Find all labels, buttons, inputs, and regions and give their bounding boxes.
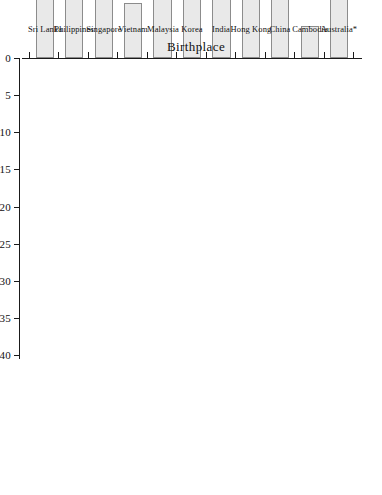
category-tick-label: Sri Lanka	[28, 24, 62, 34]
value-tick-label: 15	[0, 163, 11, 175]
category-tick-label: Korea	[181, 24, 202, 34]
value-tick	[14, 95, 20, 96]
value-tick-label: 5	[5, 89, 11, 101]
value-tick-label: 25	[0, 238, 11, 250]
category-tick	[324, 52, 325, 58]
chart-figure: Australia*CambodiaChinaHong KongIndiaKor…	[0, 0, 382, 495]
value-tick	[14, 355, 20, 356]
category-tick	[147, 52, 148, 58]
category-axis-line	[22, 58, 362, 59]
category-tick-label: Hong Kong	[231, 24, 272, 34]
category-tick	[88, 52, 89, 58]
category-tick-label: China	[270, 24, 291, 34]
category-tick	[29, 52, 30, 58]
plot-area	[30, 58, 354, 358]
chart-canvas: Australia*CambodiaChinaHong KongIndiaKor…	[0, 0, 382, 495]
category-tick	[58, 52, 59, 58]
category-tick	[117, 52, 118, 58]
value-tick-label: 10	[0, 126, 11, 138]
value-axis-line	[19, 58, 20, 359]
category-tick	[353, 52, 354, 58]
category-tick-label: Vietnam	[118, 24, 147, 34]
value-tick	[14, 244, 20, 245]
category-tick	[294, 52, 295, 58]
value-tick	[14, 318, 20, 319]
value-tick	[14, 281, 20, 282]
value-tick	[14, 132, 20, 133]
category-tick-label: Cambodia	[292, 24, 328, 34]
value-tick-label: 35	[0, 312, 11, 324]
category-axis-title: Birthplace	[167, 39, 225, 55]
value-tick-label: 40	[0, 349, 11, 361]
category-tick-label: Malaysia	[147, 24, 179, 34]
category-tick	[235, 52, 236, 58]
value-tick-label: 0	[5, 52, 11, 64]
value-tick	[14, 169, 20, 170]
category-tick-label: India	[212, 24, 230, 34]
category-tick	[265, 52, 266, 58]
value-tick-label: 20	[0, 201, 11, 213]
value-tick	[14, 58, 20, 59]
value-tick-label: 30	[0, 275, 11, 287]
value-tick	[14, 207, 20, 208]
